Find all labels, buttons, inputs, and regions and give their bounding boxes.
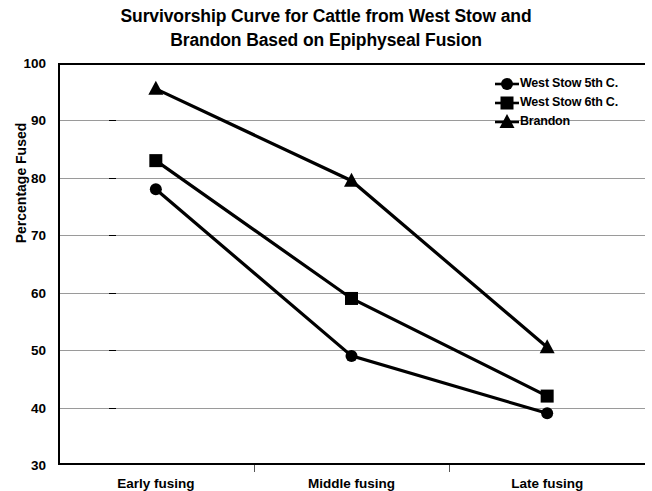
legend-circle-marker-icon: [494, 76, 520, 92]
legend: West Stow 5th C.West Stow 6th C.Brandon: [494, 74, 644, 131]
series-line: [156, 89, 547, 347]
chart-title-line-1: Survivorship Curve for Cattle from West …: [0, 4, 652, 28]
x-tick-label: Early fusing: [117, 476, 194, 491]
y-tick-label: 60: [0, 287, 46, 301]
y-tick-label: 70: [0, 229, 46, 243]
data-point-marker: [346, 350, 358, 362]
x-tick-label: Late fusing: [511, 476, 583, 491]
y-tick-label: 100: [0, 57, 46, 71]
data-point-marker: [149, 154, 162, 167]
legend-label: Brandon: [520, 115, 570, 128]
y-tick-label: 30: [0, 459, 46, 473]
data-point-marker: [148, 81, 163, 95]
series-square: [149, 154, 553, 402]
y-tick-label: 80: [0, 172, 46, 186]
legend-item[interactable]: West Stow 5th C.: [494, 74, 644, 93]
x-tick-mark: [449, 465, 450, 472]
y-tick-label: 40: [0, 402, 46, 416]
x-tick-label: Middle fusing: [308, 476, 395, 491]
data-point-marker: [541, 390, 554, 403]
legend-label: West Stow 5th C.: [520, 77, 618, 90]
legend-triangle-marker-icon: [494, 114, 520, 130]
data-point-marker: [150, 183, 162, 195]
legend-square-marker-icon: [494, 95, 520, 111]
data-point-marker: [345, 292, 358, 305]
data-point-marker: [541, 407, 553, 419]
chart-title-line-2: Brandon Based on Epiphyseal Fusion: [0, 28, 652, 52]
y-tick-label: 90: [0, 114, 46, 128]
legend-label: West Stow 6th C.: [520, 96, 618, 109]
y-tick-label: 50: [0, 344, 46, 358]
x-tick-mark: [254, 465, 255, 472]
legend-item[interactable]: West Stow 6th C.: [494, 93, 644, 112]
legend-item[interactable]: Brandon: [494, 112, 644, 131]
chart-title: Survivorship Curve for Cattle from West …: [0, 4, 652, 52]
